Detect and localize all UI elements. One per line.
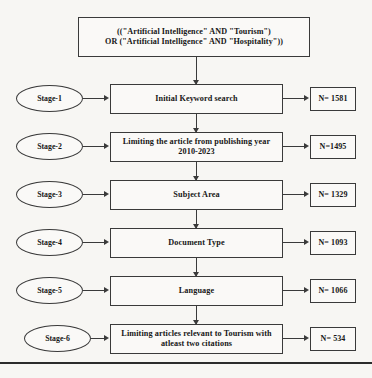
arrowhead-process-4-to-result bbox=[304, 239, 309, 245]
result-count-4: N= 1093 bbox=[318, 238, 347, 247]
stage-ellipse-1: Stage-1 bbox=[16, 85, 83, 112]
process-box-1-line-1: Initial Keyword search bbox=[155, 94, 238, 104]
search-query-box: (("Artificial Intelligence" AND "Tourism… bbox=[78, 17, 310, 57]
result-box-6: N= 534 bbox=[310, 327, 356, 351]
connector-stage-6-to-process bbox=[91, 338, 104, 339]
arrowhead-process-3-to-result bbox=[304, 191, 309, 197]
result-count-1: N= 1581 bbox=[318, 94, 347, 103]
bottom-divider bbox=[0, 362, 372, 364]
connector-process-3-to-result bbox=[283, 194, 305, 195]
process-box-3: Subject Area bbox=[110, 180, 283, 210]
process-box-2-line-2: 2010-2023 bbox=[123, 147, 270, 157]
process-box-6-line-2: atleast two citations bbox=[121, 339, 271, 349]
connector-process-2-to-result bbox=[283, 146, 305, 147]
process-box-1: Initial Keyword search bbox=[110, 84, 283, 114]
arrowhead-process-1-to-result bbox=[304, 95, 309, 101]
arrowhead-process-5-to-result bbox=[304, 287, 309, 293]
process-box-2: Limiting the article from publishing yea… bbox=[110, 132, 283, 162]
arrowhead-process-6-to-result bbox=[304, 335, 309, 341]
connector-stage-3-to-process bbox=[83, 194, 104, 195]
process-box-6-line-1: Limiting articles relevant to Tourism wi… bbox=[121, 329, 271, 339]
arrowhead-process-2-to-result bbox=[304, 143, 309, 149]
process-box-4-line-1: Document Type bbox=[168, 238, 224, 248]
stage-label-1: Stage-1 bbox=[37, 94, 62, 103]
arrowhead-stage-2-to-process bbox=[104, 143, 109, 149]
result-box-4: N= 1093 bbox=[310, 231, 356, 255]
result-box-5: N= 1066 bbox=[310, 279, 356, 303]
search-query-line-2: OR ("Artificial Intelligence" AND "Hospi… bbox=[105, 37, 283, 47]
result-count-6: N= 534 bbox=[321, 334, 346, 343]
connector-process-4-to-result bbox=[283, 242, 305, 243]
arrowhead-stage-3-to-process bbox=[104, 191, 109, 197]
stage-label-4: Stage-4 bbox=[37, 238, 62, 247]
connector-process-5-to-result bbox=[283, 290, 305, 291]
result-box-2: N=1495 bbox=[310, 135, 356, 159]
process-box-5: Language bbox=[110, 276, 283, 306]
result-count-5: N= 1066 bbox=[318, 286, 347, 295]
connector-stage-4-to-process bbox=[83, 242, 104, 243]
result-box-1: N= 1581 bbox=[310, 87, 356, 111]
result-count-2: N=1495 bbox=[320, 142, 347, 151]
process-box-6: Limiting articles relevant to Tourism wi… bbox=[110, 324, 283, 354]
process-box-5-line-1: Language bbox=[179, 286, 214, 296]
stage-ellipse-4: Stage-4 bbox=[16, 229, 83, 256]
process-box-4: Document Type bbox=[110, 228, 283, 258]
stage-label-6: Stage-6 bbox=[45, 334, 70, 343]
process-box-3-line-1: Subject Area bbox=[173, 190, 219, 200]
connector-process-6-to-result bbox=[283, 338, 305, 339]
stage-ellipse-5: Stage-5 bbox=[16, 277, 83, 304]
search-query-line-1: (("Artificial Intelligence" AND "Tourism… bbox=[105, 27, 283, 37]
connector-stage-5-to-process bbox=[83, 290, 104, 291]
stage-label-3: Stage-3 bbox=[37, 190, 62, 199]
connector-stage-2-to-process bbox=[83, 146, 104, 147]
connector-process-1-to-result bbox=[283, 98, 305, 99]
stage-ellipse-6: Stage-6 bbox=[24, 325, 91, 352]
arrowhead-stage-6-to-process bbox=[104, 335, 109, 341]
result-box-3: N= 1329 bbox=[310, 183, 356, 207]
process-box-2-line-1: Limiting the article from publishing yea… bbox=[123, 137, 270, 147]
stage-label-2: Stage-2 bbox=[37, 142, 62, 151]
stage-ellipse-2: Stage-2 bbox=[16, 133, 83, 160]
arrowhead-stage-1-to-process bbox=[104, 95, 109, 101]
arrowhead-stage-5-to-process bbox=[104, 287, 109, 293]
connector-stage-1-to-process bbox=[83, 98, 104, 99]
flowchart-canvas: (("Artificial Intelligence" AND "Tourism… bbox=[0, 0, 372, 378]
result-count-3: N= 1329 bbox=[318, 190, 347, 199]
arrowhead-stage-4-to-process bbox=[104, 239, 109, 245]
stage-ellipse-3: Stage-3 bbox=[16, 181, 83, 208]
stage-label-5: Stage-5 bbox=[37, 286, 62, 295]
